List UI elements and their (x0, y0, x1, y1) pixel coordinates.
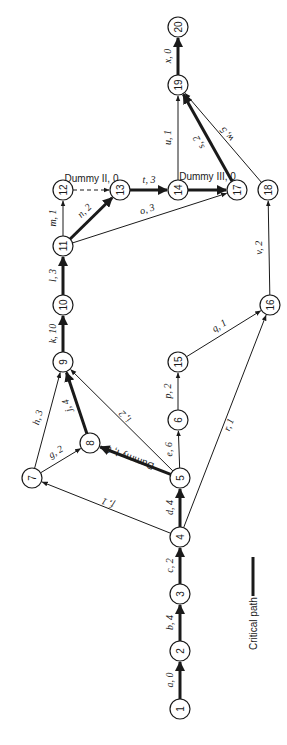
edge-label-16-18: v, 2 (253, 241, 264, 255)
edge-label-9-10: k, 10 (47, 324, 58, 343)
node-number: 4 (175, 534, 186, 540)
node-14: 14 (168, 180, 188, 200)
node-number: 20 (173, 21, 184, 33)
node-number: 13 (115, 184, 126, 196)
edge-label-4-7: f, 1 (100, 496, 116, 511)
edge-label-4-5: d, 4 (164, 500, 175, 515)
node-number: 8 (85, 440, 96, 446)
node-1: 1 (170, 699, 190, 719)
edge-label-15-16: q, 1 (210, 317, 229, 334)
edge-label-5-9: i, 2 (116, 408, 133, 425)
node-number: 5 (175, 475, 186, 481)
node-8: 8 (80, 433, 100, 453)
node-5: 5 (170, 468, 190, 488)
node-number: 16 (265, 299, 276, 311)
edge-label-11-17: o, 3 (138, 201, 156, 216)
node-16: 16 (260, 295, 280, 315)
edge-label-17-19: s, 2 (190, 134, 206, 152)
node-7: 7 (22, 468, 42, 488)
edge-label-2-3: b, 4 (164, 615, 175, 630)
node-number: 18 (263, 184, 274, 196)
node-3: 3 (170, 584, 190, 604)
node-number: 1 (175, 706, 186, 712)
node-2: 2 (170, 641, 190, 661)
node-number: 17 (232, 184, 243, 196)
edge-label-6-15: p, 2 (162, 384, 173, 400)
node-number: 2 (175, 648, 186, 654)
node-19: 19 (168, 75, 188, 95)
edge-label-19-20: x, 0 (162, 49, 173, 64)
edge-label-7-8: g, 2 (46, 443, 65, 460)
node-12: 12 (53, 180, 73, 200)
edge-label-5-6: e, 6 (163, 442, 174, 457)
edge-label-14-17: Dummy III, 0 (179, 171, 236, 182)
node-number: 12 (58, 184, 69, 196)
node-15: 15 (168, 352, 188, 372)
legend-critical-path-label: Critical path (248, 597, 259, 650)
edge-label-3-4: c, 2 (164, 558, 175, 572)
node-number: 10 (58, 299, 69, 311)
node-number: 6 (173, 417, 184, 423)
edge-11-13 (70, 198, 112, 239)
node-13: 13 (110, 180, 130, 200)
network-diagram: a, 0b, 4c, 2d, 4e, 6f, 1g, 2h, 3i, 2j, 4… (0, 0, 287, 745)
node-number: 9 (58, 359, 69, 365)
edge-label-8-9: j, 4 (59, 398, 74, 416)
node-number: 7 (27, 475, 38, 481)
edge-label-12-13: Dummy II, 0 (65, 173, 119, 184)
edge-label-5-8: Dummy I, 0 (103, 443, 155, 472)
edge-label-4-16: r, 1 (221, 417, 236, 433)
edge-label-7-9: h, 3 (30, 409, 44, 426)
edge-label-10-11: l, 3 (47, 269, 58, 282)
node-number: 3 (175, 591, 186, 597)
edge-15-16 (187, 311, 261, 357)
nodes-layer: 1234567891011121314151617181920 (22, 17, 280, 719)
edge-16-18 (268, 201, 270, 295)
edge-label-18-19: w, 5 (217, 125, 236, 144)
node-17: 17 (227, 180, 247, 200)
node-4: 4 (170, 527, 190, 547)
edge-11-17 (73, 193, 227, 243)
edge-label-1-2: a, 0 (164, 673, 175, 688)
node-20: 20 (168, 17, 188, 37)
edge-label-13-14: t, 3 (143, 174, 156, 185)
edge-label-11-12: m, 1 (47, 209, 58, 226)
node-number: 14 (173, 184, 184, 196)
node-18: 18 (258, 180, 278, 200)
edge-5-6 (178, 431, 179, 468)
node-number: 19 (173, 79, 184, 91)
node-number: 11 (58, 240, 69, 251)
edge-label-14-19: u, 1 (162, 130, 173, 145)
node-6: 6 (168, 410, 188, 430)
node-11: 11 (53, 236, 73, 256)
node-9: 9 (53, 352, 73, 372)
legend: Critical path (248, 557, 259, 650)
node-number: 15 (173, 356, 184, 368)
node-10: 10 (53, 295, 73, 315)
